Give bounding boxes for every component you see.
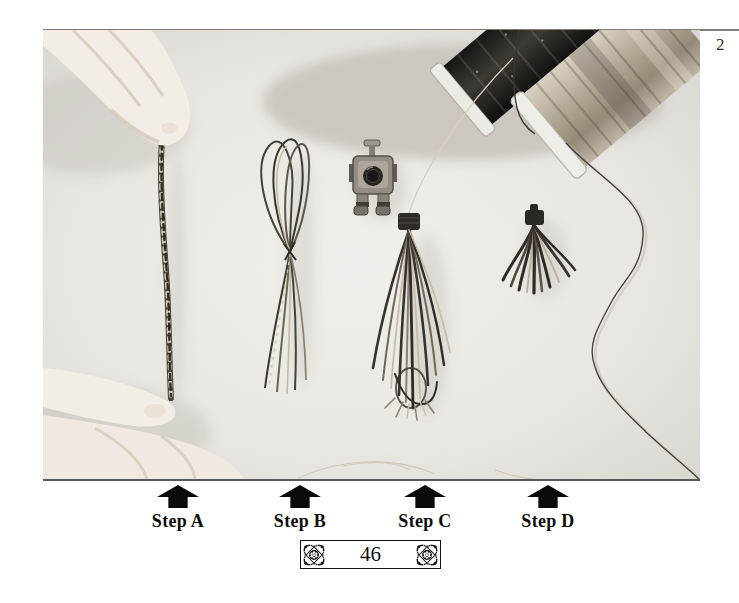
page-number: 46	[325, 544, 416, 566]
step-marker-a: Step A	[136, 485, 220, 532]
up-arrow-icon	[157, 485, 199, 508]
book-page: 2	[0, 0, 739, 603]
up-arrow-icon	[527, 485, 569, 508]
instruction-photo-frame	[43, 30, 700, 481]
step-marker-d: Step D	[506, 485, 590, 532]
step-marker-c: Step C	[383, 485, 467, 532]
up-arrow-icon	[279, 485, 321, 508]
folio-ornament-icon	[416, 544, 438, 566]
instruction-photo	[43, 30, 700, 479]
up-arrow-icon	[404, 485, 446, 508]
step-label-b: Step B	[258, 511, 342, 532]
step-label-a: Step A	[136, 511, 220, 532]
figure-number: 2	[716, 35, 725, 55]
step-label-d: Step D	[506, 511, 590, 532]
page-number-box: 46	[300, 540, 441, 569]
folio-ornament-icon	[303, 544, 325, 566]
step-label-c: Step C	[383, 511, 467, 532]
step-marker-b: Step B	[258, 485, 342, 532]
